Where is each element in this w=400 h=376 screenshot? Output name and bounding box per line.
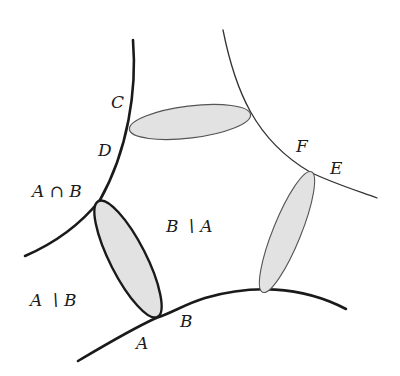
top-ellipse <box>128 99 253 146</box>
label-B: B <box>180 313 193 330</box>
label-a-intersect-b: A ∩ B <box>32 183 82 200</box>
label-a-minus-b: A ∖ B <box>30 292 77 309</box>
label-b-minus-a: B ∖ A <box>166 218 213 235</box>
label-D: D <box>98 142 112 159</box>
left-curve-lower <box>25 200 100 256</box>
left-curve <box>100 40 134 200</box>
label-A: A <box>136 335 148 352</box>
label-C: C <box>111 94 124 111</box>
left-ellipse <box>82 193 173 325</box>
label-F: F <box>296 138 308 155</box>
label-E: E <box>330 160 342 177</box>
right-ellipse <box>250 166 325 297</box>
